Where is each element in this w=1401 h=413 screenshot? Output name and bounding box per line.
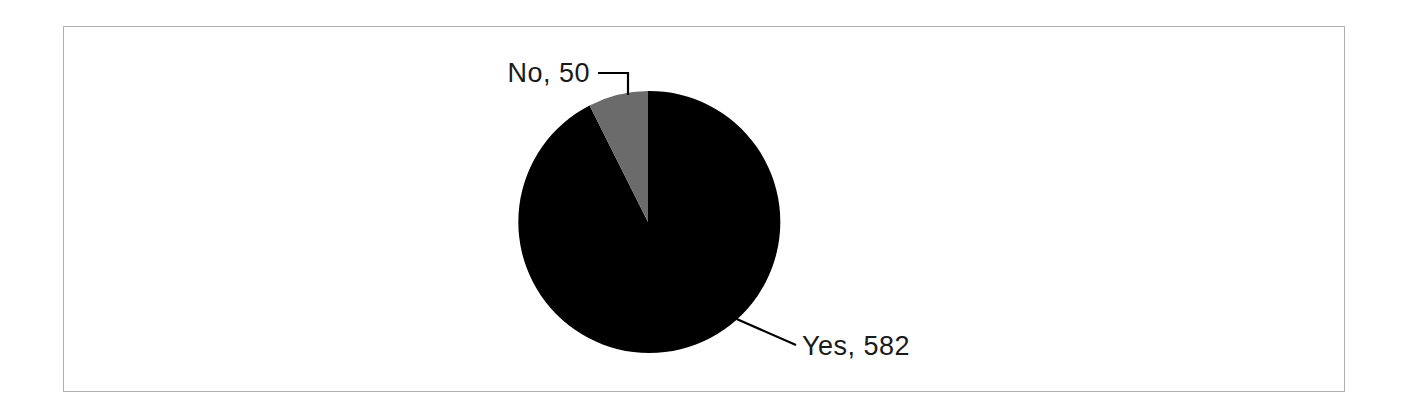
leader-line-no [598,73,628,95]
pie-chart-svg: No, 50 Yes, 582 [0,0,1401,413]
pie-data-label-no: No, 50 [507,58,590,88]
pie-data-label-yes: Yes, 582 [802,331,910,361]
pie-slice-yes[interactable] [518,91,780,353]
chart-plot-area: No, 50 Yes, 582 [0,0,1401,413]
pie-chart-figure: No, 50 Yes, 582 [0,0,1401,413]
leader-line-yes [723,313,796,345]
